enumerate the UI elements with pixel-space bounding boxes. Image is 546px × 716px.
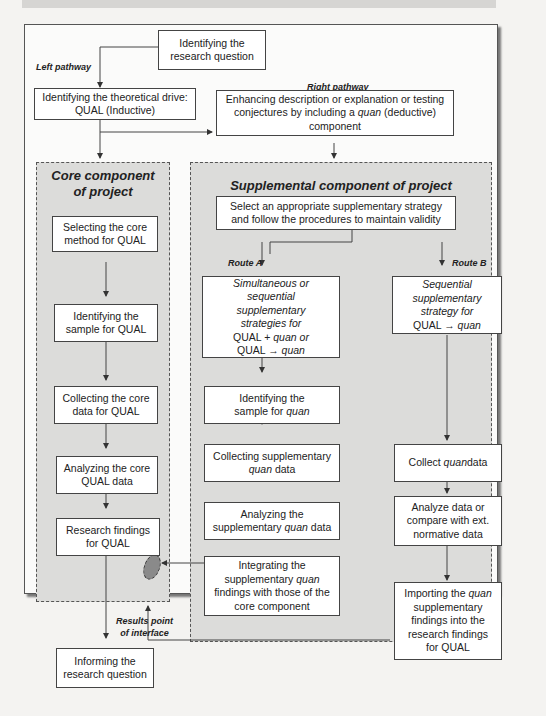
integrate-findings-box: Integrating the supplementary quan findi…: [204, 556, 340, 616]
box-line: Collecting the core: [63, 392, 150, 406]
box-line: for QUAL: [426, 641, 470, 655]
text: quan or: [273, 331, 309, 343]
sample-qual-box: Identifying the sample for QUAL: [54, 304, 158, 342]
box-line: compare with ext.: [407, 514, 489, 528]
text: quan: [444, 456, 467, 470]
box-line: QUAL + quan or: [233, 331, 309, 345]
text: QUAL +: [233, 331, 273, 343]
box-line: Collecting supplementary: [213, 450, 331, 464]
box-line: supplementary quan data: [213, 521, 332, 535]
box-line: Informing the: [74, 655, 135, 669]
research-question-box: Identifying the research question: [158, 30, 266, 70]
box-line: and follow the procedures to maintain va…: [231, 213, 441, 227]
sample-quan-box: Identifying the sample for quan: [204, 386, 340, 424]
box-line: findings into the: [411, 614, 485, 628]
box-line: research findings: [408, 628, 488, 642]
box-line: findings with those of the: [214, 586, 330, 600]
analyze-external-box: Analyze data or compare with ext. normat…: [394, 496, 502, 546]
text: supplementary: [213, 521, 285, 533]
box-line: core component: [234, 600, 309, 614]
box-line: Analyzing the: [240, 508, 303, 522]
box-line: Simultaneous or: [233, 277, 309, 291]
box-line: QUAL data: [81, 475, 133, 489]
box-line: research question: [63, 668, 146, 682]
informing-research-question-box: Informing the research question: [56, 648, 154, 688]
box-line: conjectures by including a quan (deducti…: [234, 106, 436, 120]
box-line: QUAL → quan: [237, 344, 305, 358]
results-label-line: of interface: [116, 627, 173, 639]
box-line: Analyzing the core: [64, 462, 150, 476]
box-line: component: [309, 120, 361, 134]
box-line: Identifying the: [73, 310, 138, 324]
box-line: Identifying the: [179, 37, 244, 51]
text: QUAL →: [413, 319, 458, 331]
left-pathway-label: Left pathway: [36, 62, 91, 72]
enhancing-description-box: Enhancing description or explanation or …: [216, 90, 454, 136]
box-line: data for QUAL: [72, 405, 139, 419]
text: quan: [458, 319, 481, 331]
text: data: [308, 521, 331, 533]
box-line: sequential: [247, 290, 295, 304]
collect-core-box: Collecting the core data for QUAL: [54, 386, 158, 424]
collect-supplementary-box: Collecting supplementary quan data: [204, 444, 340, 482]
box-line: QUAL → quan: [413, 319, 481, 333]
theoretical-drive-box: Identifying the theoretical drive: QUAL …: [34, 88, 196, 120]
text: quan: [285, 521, 308, 533]
importing-findings-box: Importing the quan supplementary finding…: [394, 582, 502, 660]
text: (deductive): [381, 106, 436, 118]
text: quan: [296, 573, 319, 585]
text: quan: [286, 405, 309, 417]
box-line: supplementary: [413, 292, 482, 306]
research-findings-qual-box: Research findings for QUAL: [56, 518, 160, 556]
text: Collect: [409, 456, 441, 470]
box-line: supplementary: [237, 304, 306, 318]
text: quan: [282, 344, 305, 356]
text: Importing the: [404, 587, 468, 599]
text: quan: [358, 106, 381, 118]
box-line: Enhancing description or explanation or …: [226, 93, 444, 107]
box-line: QUAL (Inductive): [75, 104, 155, 118]
box-line: Integrating the: [238, 559, 305, 573]
box-line: for QUAL: [86, 537, 130, 551]
text: data: [467, 456, 487, 470]
box-line: Analyze data or: [412, 501, 485, 515]
box-line: strategy for: [421, 305, 474, 319]
text: conjectures by including a: [234, 106, 358, 118]
text: supplementary: [224, 573, 296, 585]
box-line: sample for quan: [234, 405, 309, 419]
core-method-box: Selecting the core method for QUAL: [52, 216, 158, 252]
text: sample for: [234, 405, 286, 417]
route-a-strategy-box: Simultaneous or sequential supplementary…: [202, 276, 340, 358]
route-b-strategy-box: Sequential supplementary strategy for QU…: [392, 276, 502, 334]
collect-quan-box: Collect quan data: [394, 444, 502, 482]
box-line: strategies for: [241, 317, 302, 331]
box-line: normative data: [413, 528, 482, 542]
box-line: Research findings: [66, 524, 150, 538]
box-line: Selecting the core: [63, 221, 147, 235]
box-line: supplementary quan: [224, 573, 319, 587]
box-line: Select an appropriate supplementary stra…: [230, 200, 442, 214]
results-point-label: Results point of interface: [116, 615, 173, 639]
text: data: [272, 463, 295, 475]
box-line: sample for QUAL: [66, 323, 147, 337]
results-label-line: Results point: [116, 615, 173, 627]
analyze-core-box: Analyzing the core QUAL data: [56, 456, 158, 494]
box-line: Identifying the: [239, 392, 304, 406]
box-line: method for QUAL: [64, 234, 146, 248]
box-line: supplementary: [414, 601, 483, 615]
text: quan: [249, 463, 272, 475]
analyze-supplementary-box: Analyzing the supplementary quan data: [204, 502, 340, 540]
text: quan: [468, 587, 491, 599]
box-line: Sequential: [422, 278, 472, 292]
text: QUAL →: [237, 344, 282, 356]
route-b-label: Route B: [452, 258, 487, 268]
select-strategy-box: Select an appropriate supplementary stra…: [216, 196, 456, 230]
box-line: research question: [170, 50, 253, 64]
box-line: quan data: [249, 463, 296, 477]
box-line: Importing the quan: [404, 587, 492, 601]
box-line: Identifying the theoretical drive:: [42, 91, 187, 105]
route-a-label: Route A: [228, 258, 262, 268]
